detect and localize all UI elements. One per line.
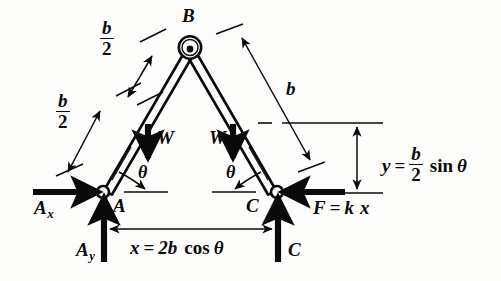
equation-vertical-height-function: sin — [430, 156, 453, 175]
label-reaction-ax-base: A — [34, 197, 47, 218]
equation-spring-force-x: x — [360, 198, 370, 217]
label-theta-left: θ — [138, 163, 147, 181]
dimension-b-half-upper-tick-lower2 — [116, 83, 141, 96]
equation-vertical-height-argument: θ — [457, 156, 467, 175]
label-b-full: b — [286, 79, 296, 98]
fraction-numerator: b — [56, 91, 70, 110]
equation-spring-force: F = kx — [313, 198, 370, 217]
angle-theta-right — [212, 147, 268, 192]
equation-horizontal-span: x = 2b cos θ — [130, 238, 224, 257]
equation-vertical-height-lhs: y — [382, 156, 390, 175]
dimension-b-full-tick-top — [216, 24, 243, 34]
angle-theta-right-arc — [235, 172, 261, 189]
angle-theta-right-member-ref — [249, 147, 268, 180]
fraction-denominator: 2 — [409, 165, 423, 184]
fraction-b-over-2-upper: b 2 — [100, 18, 114, 59]
dimension-b-half-lower-tick-bottom — [56, 164, 83, 176]
label-weight-right: W — [209, 128, 226, 147]
dimension-b-half-lower-arrow — [68, 111, 100, 172]
fraction-numerator: b — [409, 144, 423, 163]
label-theta-right: θ — [226, 163, 235, 181]
equation-spring-force-operator: = — [330, 198, 341, 217]
member-ab-edge-inner — [112, 57, 192, 195]
label-joint-b: B — [182, 6, 195, 25]
equation-vertical-height: y = b 2 sin θ — [382, 145, 467, 186]
equation-vertical-height-fraction: b 2 — [409, 144, 423, 185]
fraction-denominator: 2 — [100, 39, 114, 58]
label-reaction-ay-base: A — [76, 239, 89, 260]
dimension-b-half-upper-tick-lower — [137, 92, 163, 105]
dimension-b-half-upper-tick-upper — [140, 29, 166, 42]
angle-theta-left-member-ref — [112, 147, 131, 180]
pin-joint-b — [179, 36, 201, 58]
dimension-b-half-upper-arrow — [128, 56, 152, 97]
label-reaction-ay-subscript: y — [89, 248, 95, 263]
fraction-denominator: 2 — [56, 112, 70, 131]
equation-horizontal-span-argument: θ — [214, 238, 224, 257]
label-reaction-ax: Ax — [34, 198, 53, 217]
label-weight-left: W — [157, 128, 174, 147]
label-b-over-2-lower: b 2 — [56, 92, 70, 133]
label-b-over-2-upper: b 2 — [100, 19, 114, 60]
equation-horizontal-span-operator: = — [144, 238, 155, 257]
label-reaction-ax-subscript: x — [47, 206, 53, 221]
equation-vertical-height-operator: = — [394, 156, 405, 175]
label-joint-c: C — [246, 196, 259, 215]
equation-horizontal-span-coefficient: 2b — [158, 238, 177, 257]
dimension-b-full-tick-bottom — [298, 162, 325, 172]
equation-spring-force-lhs: F — [313, 198, 326, 217]
equation-spring-force-k: k — [345, 198, 355, 217]
equation-horizontal-span-lhs: x — [130, 238, 140, 257]
dimension-b-full-arrow — [242, 38, 310, 160]
member-cb-edge-outer — [196, 52, 277, 192]
pin-joint-b-center-dot — [187, 46, 194, 53]
fraction-numerator: b — [100, 18, 114, 37]
pin-joint-c — [271, 186, 283, 198]
equation-horizontal-span-function: cos — [184, 238, 209, 257]
figure-canvas: b 2 b 2 b B W W θ θ A C Ax Ay C F = kx — [0, 0, 501, 281]
fraction-b-over-2-lower: b 2 — [56, 91, 70, 132]
label-reaction-c: C — [288, 240, 301, 259]
label-reaction-ay: Ay — [76, 240, 94, 259]
label-joint-a: A — [113, 196, 126, 215]
pin-joint-c-ring — [271, 186, 283, 198]
dimension-y-height — [258, 123, 383, 193]
dimension-b-half-upper — [116, 29, 166, 105]
